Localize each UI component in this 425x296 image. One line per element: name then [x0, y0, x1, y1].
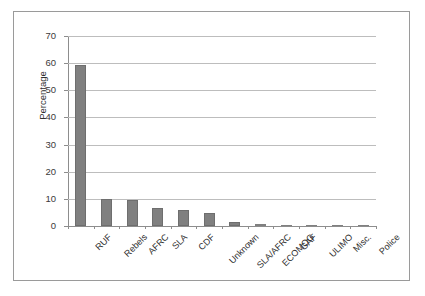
y-tick-label: 50 — [45, 85, 56, 95]
x-tick-label: SLA — [170, 232, 189, 251]
bar-ruf — [75, 65, 86, 226]
x-tick-mark — [94, 226, 95, 229]
x-tick-label: ULIMO — [327, 232, 354, 259]
bar-chart: Percentage 010203040506070 RUFRebelsAFRC… — [14, 12, 409, 280]
bars-group — [68, 36, 376, 226]
x-tick-label-text: ULIMO — [327, 232, 354, 259]
x-tick-mark — [376, 226, 377, 229]
x-tick-mark — [248, 226, 249, 229]
x-tick-label-text: Police — [377, 232, 401, 256]
x-tick-label-text: CDF — [196, 232, 216, 252]
x-tick-mark — [145, 226, 146, 229]
x-tick-label-text: RUF — [93, 232, 113, 252]
y-tick-label: 20 — [45, 167, 56, 177]
x-tick-mark — [325, 226, 326, 229]
x-tick-mark — [299, 226, 300, 229]
x-tick-mark — [119, 226, 120, 229]
y-tick-label: 40 — [45, 112, 56, 122]
x-tick-mark — [196, 226, 197, 229]
x-tick-label-text: Misc. — [351, 232, 373, 254]
x-tick-label: RUF — [93, 232, 113, 252]
plot-area — [68, 36, 376, 226]
x-tick-label-text: Rebels — [122, 232, 149, 259]
x-tick-label: Misc. — [351, 232, 373, 254]
x-tick-label: CDF — [196, 232, 216, 252]
y-tick-label: 60 — [45, 58, 56, 68]
bar-sla-afrc — [229, 222, 240, 226]
bar-ulimo — [306, 225, 317, 226]
y-tick-label: 10 — [45, 194, 56, 204]
y-tick-label: 70 — [45, 31, 56, 41]
bar-ecomog — [255, 224, 266, 226]
x-tick-mark — [68, 226, 69, 229]
x-tick-mark — [273, 226, 274, 229]
x-tick-label: Rebels — [122, 232, 149, 259]
bar-gaf — [281, 225, 292, 226]
x-tick-label-text: AFRC — [146, 232, 170, 256]
y-tick-label: 30 — [45, 140, 56, 150]
bar-police — [358, 225, 369, 226]
bar-sla — [152, 208, 163, 226]
x-tick-label-text: GAF — [299, 232, 319, 252]
bar-rebels — [101, 199, 112, 226]
bar-cdf — [178, 210, 189, 226]
x-tick-label: Police — [377, 232, 401, 256]
x-tick-label: AFRC — [146, 232, 170, 256]
bar-unknown — [204, 213, 215, 226]
bar-misc — [332, 225, 343, 226]
figure-frame: Percentage 010203040506070 RUFRebelsAFRC… — [13, 11, 410, 281]
bar-afrc — [127, 200, 138, 226]
x-tick-mark — [222, 226, 223, 229]
x-tick-mark — [171, 226, 172, 229]
y-tick-label: 0 — [51, 221, 56, 231]
x-tick-mark — [350, 226, 351, 229]
x-tick-label-text: SLA — [170, 232, 189, 251]
x-tick-label: GAF — [299, 232, 319, 252]
